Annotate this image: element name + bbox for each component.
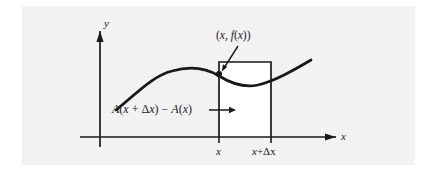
tick-label-x: x xyxy=(216,146,221,157)
area-label-minus: − xyxy=(159,102,172,116)
tick-label-x-plus-delta-x: x+Δx xyxy=(252,146,276,157)
x-axis-arrowhead xyxy=(325,133,336,140)
y-axis-arrowhead xyxy=(96,31,103,42)
point-label-close-paren: ) xyxy=(247,29,251,41)
y-axis-label: y xyxy=(104,18,109,29)
area-label-rparen-2: ) xyxy=(188,102,192,116)
area-label-delta: Δ xyxy=(141,102,149,116)
point-marker xyxy=(216,71,222,77)
area-label-A2: A xyxy=(171,102,178,116)
point-label: (x, f(x)) xyxy=(216,30,251,42)
area-difference-label: A(x + Δx) − A(x) xyxy=(112,103,192,115)
x-axis-label: x xyxy=(341,131,346,142)
figure-container: y x (x, f(x)) A(x + Δx) − A(x) x x+Δx xyxy=(0,0,437,171)
tick-label-delta-part: +Δx xyxy=(257,145,276,157)
area-strip-rectangle xyxy=(219,62,271,137)
area-label-plus: + xyxy=(129,102,142,116)
